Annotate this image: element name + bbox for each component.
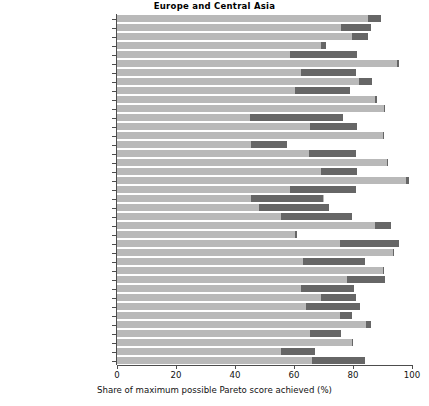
bar-row — [117, 96, 412, 102]
bar-light-segment — [117, 33, 368, 39]
x-axis-tick — [117, 365, 118, 369]
bar-light-segment — [117, 276, 385, 282]
y-axis-tick — [112, 46, 116, 47]
bar-dark-segment — [375, 96, 376, 102]
bar-dark-segment — [387, 159, 388, 165]
chart-container: Europe and Central Asia AlbaniaArmeniaAu… — [0, 0, 429, 406]
bar-row — [117, 42, 412, 48]
bar-row — [117, 24, 412, 30]
bar-dark-segment — [406, 177, 409, 183]
bar-row — [117, 168, 412, 174]
bar-light-segment — [117, 60, 399, 66]
y-axis-tick — [112, 127, 116, 128]
bar-row — [117, 15, 412, 21]
bar-row — [117, 141, 412, 147]
y-axis-tick — [112, 334, 116, 335]
y-axis-tick — [112, 100, 116, 101]
y-axis-tick — [112, 325, 116, 326]
bar-row — [117, 249, 412, 255]
y-axis-tick — [112, 262, 116, 263]
x-axis-tick — [353, 365, 354, 369]
bar-dark-segment — [397, 60, 398, 66]
bar-row — [117, 312, 412, 318]
y-axis-tick — [112, 289, 116, 290]
bar-row — [117, 204, 412, 210]
bar-dark-segment — [384, 105, 385, 111]
y-axis-tick — [112, 145, 116, 146]
bar-row — [117, 231, 412, 237]
bar-row — [117, 222, 412, 228]
y-axis-tick — [112, 19, 116, 20]
bar-dark-segment — [312, 357, 365, 363]
bar-row — [117, 60, 412, 66]
bar-light-segment — [117, 339, 353, 345]
y-axis-tick — [112, 253, 116, 254]
bar-dark-segment — [347, 276, 385, 282]
bar-dark-segment — [359, 78, 372, 84]
y-axis-tick — [112, 37, 116, 38]
bar-light-segment — [117, 231, 297, 237]
bar-dark-segment — [383, 267, 384, 273]
bar-dark-segment — [295, 87, 350, 93]
bar-dark-segment — [281, 348, 315, 354]
bar-row — [117, 195, 412, 201]
bar-light-segment — [117, 249, 394, 255]
bar-light-segment — [117, 132, 384, 138]
y-axis-tick — [112, 235, 116, 236]
bar-light-segment — [117, 312, 352, 318]
x-axis-tick-label: 20 — [171, 370, 182, 380]
bar-row — [117, 339, 412, 345]
y-axis-tick — [112, 55, 116, 56]
y-axis-tick — [112, 28, 116, 29]
bar-dark-segment — [321, 294, 356, 300]
bar-row — [117, 132, 412, 138]
bar-row — [117, 123, 412, 129]
chart-title: Europe and Central Asia — [0, 1, 429, 11]
y-axis-tick — [112, 199, 116, 200]
bar-dark-segment — [290, 186, 356, 192]
x-axis-tick — [235, 365, 236, 369]
bar-light-segment — [117, 105, 385, 111]
bar-light-segment — [117, 177, 409, 183]
bar-dark-segment — [340, 312, 352, 318]
bar-row — [117, 321, 412, 327]
y-axis-tick — [112, 73, 116, 74]
bar-dark-segment — [341, 24, 371, 30]
bar-row — [117, 177, 412, 183]
bar-dark-segment — [352, 33, 368, 39]
bar-dark-segment — [295, 231, 296, 237]
y-axis-tick — [112, 343, 116, 344]
bar-light-segment — [117, 78, 372, 84]
y-axis-tick — [112, 136, 116, 137]
bar-row — [117, 276, 412, 282]
y-axis-tick — [112, 64, 116, 65]
bar-dark-segment — [250, 114, 343, 120]
bar-row — [117, 150, 412, 156]
y-axis-tick — [112, 181, 116, 182]
y-axis-tick — [112, 298, 116, 299]
bar-row — [117, 258, 412, 264]
x-axis-tick — [294, 365, 295, 369]
y-axis-tick — [112, 244, 116, 245]
bar-dark-segment — [375, 222, 391, 228]
y-axis-tick — [112, 280, 116, 281]
bar-row — [117, 303, 412, 309]
y-axis-tick — [112, 217, 116, 218]
bar-row — [117, 294, 412, 300]
bar-row — [117, 186, 412, 192]
bar-light-segment — [117, 321, 371, 327]
bar-dark-segment — [321, 168, 358, 174]
x-axis-tick-label: 100 — [404, 370, 420, 380]
y-axis-tick — [112, 91, 116, 92]
bar-dark-segment — [310, 330, 341, 336]
bar-dark-segment — [383, 132, 384, 138]
bar-row — [117, 78, 412, 84]
bar-row — [117, 33, 412, 39]
bar-row — [117, 105, 412, 111]
bar-row — [117, 159, 412, 165]
bar-row — [117, 51, 412, 57]
y-axis-tick — [112, 172, 116, 173]
bar-row — [117, 357, 412, 363]
y-axis-tick — [112, 271, 116, 272]
y-axis-tick — [112, 163, 116, 164]
